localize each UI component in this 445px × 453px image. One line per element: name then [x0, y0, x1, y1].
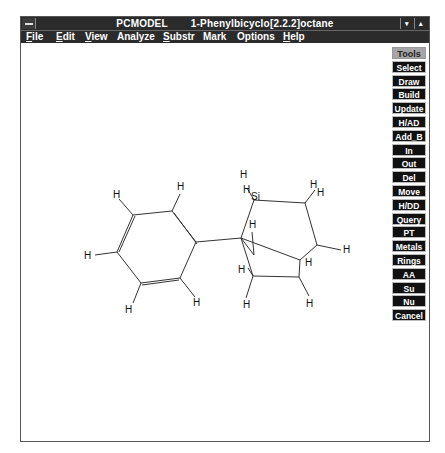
atom-h: H	[177, 181, 184, 192]
atom-h: H	[243, 184, 250, 195]
atom-h: H	[125, 304, 132, 315]
tool-move-button[interactable]: Move	[392, 185, 426, 197]
tool-pt-button[interactable]: PT	[392, 226, 426, 238]
tool-update-button[interactable]: Update	[392, 102, 426, 114]
tool-add-b-button[interactable]: Add_B	[392, 130, 426, 142]
tool-h-dd-button[interactable]: H/DD	[392, 199, 426, 211]
atom-h: H	[305, 257, 312, 268]
title-bar[interactable]: PCMODEL 1-Phenylbicyclo[2.2.2]octane ▾ ▴	[21, 17, 429, 30]
tool-in-button[interactable]: In	[392, 144, 426, 156]
tool-del-button[interactable]: Del	[392, 171, 426, 183]
tool-cancel-button[interactable]: Cancel	[392, 309, 426, 321]
tool-su-button[interactable]: Su	[392, 282, 426, 294]
atom-h: H	[243, 299, 250, 310]
menu-substr[interactable]: Substr	[163, 31, 195, 43]
molecule-canvas[interactable]: H H H H H H H Si H H H H H H H H Tools S…	[21, 43, 429, 441]
minimize-icon: ▾	[405, 20, 409, 27]
tool-build-button[interactable]: Build	[392, 88, 426, 100]
tools-panel: Tools Select Draw Build Update H/AD Add_…	[392, 47, 428, 323]
tool-nu-button[interactable]: Nu	[392, 295, 426, 307]
maximize-icon: ▴	[419, 20, 423, 27]
atom-h: H	[84, 250, 91, 261]
menu-edit[interactable]: Edit	[56, 31, 75, 43]
atom-h: H	[240, 169, 247, 180]
tool-aa-button[interactable]: AA	[392, 268, 426, 280]
menu-mark[interactable]: Mark	[203, 31, 226, 43]
menu-analyze[interactable]: Analyze	[117, 31, 155, 43]
menu-options[interactable]: Options	[237, 31, 275, 43]
menu-bar: File Edit View Analyze Substr Mark Optio…	[21, 30, 429, 43]
atom-h: H	[238, 264, 245, 275]
maximize-button[interactable]: ▴	[414, 18, 427, 29]
atom-h: H	[306, 298, 313, 309]
atom-h: H	[317, 187, 324, 198]
tool-metals-button[interactable]: Metals	[392, 240, 426, 252]
atom-h: H	[113, 189, 120, 200]
pcmodel-window: PCMODEL 1-Phenylbicyclo[2.2.2]octane ▾ ▴…	[20, 16, 430, 442]
menu-help[interactable]: Help	[283, 31, 305, 43]
tool-h-ad-button[interactable]: H/AD	[392, 116, 426, 128]
menu-file[interactable]: File	[26, 31, 43, 43]
atom-h: H	[343, 244, 350, 255]
molecule-drawing: H H H H H H H Si H H H H H H H H	[21, 43, 391, 441]
tools-header: Tools	[392, 47, 426, 59]
menu-view[interactable]: View	[85, 31, 108, 43]
document-title: 1-Phenylbicyclo[2.2.2]octane	[191, 18, 334, 29]
atom-si: Si	[251, 191, 260, 202]
atom-h: H	[193, 297, 200, 308]
tool-out-button[interactable]: Out	[392, 157, 426, 169]
tool-rings-button[interactable]: Rings	[392, 254, 426, 266]
atom-h: H	[249, 219, 256, 230]
tool-draw-button[interactable]: Draw	[392, 75, 426, 87]
app-name: PCMODEL	[116, 18, 167, 29]
minimize-button[interactable]: ▾	[400, 18, 413, 29]
tool-select-button[interactable]: Select	[392, 61, 426, 73]
window-title: PCMODEL 1-Phenylbicyclo[2.2.2]octane	[21, 17, 429, 30]
tool-query-button[interactable]: Query	[392, 213, 426, 225]
